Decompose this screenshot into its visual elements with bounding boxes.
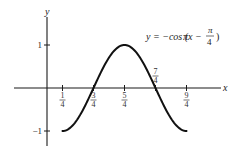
x-tick-label-numerator: 5 (123, 91, 127, 100)
y-tick-label: −1 (32, 126, 42, 136)
equation-close: ) (216, 31, 219, 43)
x-tick-label-numerator: 1 (61, 91, 65, 100)
x-tick-label-denominator: 4 (123, 100, 127, 109)
x-tick-label-denominator: 4 (185, 100, 189, 109)
x-tick-label-numerator: 7 (154, 67, 158, 76)
x-tick-label-denominator: 4 (61, 100, 65, 109)
x-tick-label-numerator: 9 (185, 91, 189, 100)
equation-pix: πx − (183, 31, 202, 42)
y-tick-label: 1 (38, 40, 43, 50)
equation-frac-num: π (208, 25, 213, 35)
equation-label: y = −cos ( πx − π 4 ) (145, 25, 219, 47)
x-axis-label: x (222, 82, 228, 93)
x-tick-label-denominator: 4 (92, 100, 96, 109)
chart: x y 14345474941−1 y = −cos ( πx − π 4 ) (0, 0, 240, 148)
y-axis-label: y (44, 6, 50, 17)
equation-frac-den: 4 (207, 37, 212, 47)
